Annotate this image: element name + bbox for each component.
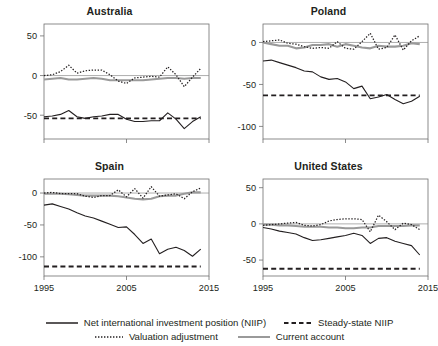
chart-australia: 500-50 bbox=[0, 0, 219, 155]
dashed-dark-line-icon bbox=[283, 318, 313, 328]
legend-label-steady-state-niip: Steady-state NIIP bbox=[318, 316, 393, 330]
solid-gray-line-icon bbox=[237, 332, 271, 342]
legend-row-2: Valuation adjustment Current account bbox=[0, 330, 438, 344]
svg-text:-50: -50 bbox=[24, 220, 37, 230]
svg-text:2015: 2015 bbox=[199, 283, 219, 293]
legend-item-valuation-adjustment: Valuation adjustment bbox=[94, 330, 218, 344]
chart-poland: 0-50-100 bbox=[219, 0, 438, 155]
chart-legend: Net international investment position (N… bbox=[0, 316, 438, 344]
panel-poland: Poland 0-50-100 bbox=[219, 0, 438, 155]
figure-niip-decomposition: Australia 500-50 Poland 0-50-100 Spain 0… bbox=[0, 0, 438, 346]
svg-text:-50: -50 bbox=[243, 80, 256, 90]
legend-label-valuation-adjustment: Valuation adjustment bbox=[129, 330, 218, 344]
solid-dark-line-icon bbox=[45, 318, 79, 328]
svg-text:0: 0 bbox=[32, 71, 37, 81]
svg-text:1995: 1995 bbox=[253, 283, 273, 293]
svg-text:2005: 2005 bbox=[116, 283, 136, 293]
panel-united-states: United States 500-50199520052015 bbox=[219, 155, 438, 306]
legend-label-niip: Net international investment position (N… bbox=[84, 316, 266, 330]
legend-label-current-account: Current account bbox=[276, 330, 344, 344]
svg-text:-50: -50 bbox=[24, 111, 37, 121]
svg-text:1995: 1995 bbox=[34, 283, 54, 293]
svg-text:-50: -50 bbox=[243, 255, 256, 265]
svg-text:50: 50 bbox=[27, 31, 37, 41]
svg-text:2005: 2005 bbox=[335, 283, 355, 293]
panel-grid: Australia 500-50 Poland 0-50-100 Spain 0… bbox=[0, 0, 438, 306]
legend-row-1: Net international investment position (N… bbox=[0, 316, 438, 330]
svg-text:-100: -100 bbox=[19, 252, 37, 262]
legend-item-steady-state-niip: Steady-state NIIP bbox=[283, 316, 393, 330]
legend-item-niip: Net international investment position (N… bbox=[45, 316, 266, 330]
dotted-dark-line-icon bbox=[94, 332, 124, 342]
panel-spain: Spain 0-50-100199520052015 bbox=[0, 155, 219, 306]
svg-text:0: 0 bbox=[32, 188, 37, 198]
svg-text:50: 50 bbox=[246, 183, 256, 193]
chart-spain: 0-50-100199520052015 bbox=[0, 155, 219, 306]
svg-text:0: 0 bbox=[251, 38, 256, 48]
svg-text:0: 0 bbox=[251, 219, 256, 229]
svg-text:-100: -100 bbox=[238, 122, 256, 132]
legend-item-current-account: Current account bbox=[237, 330, 344, 344]
panel-australia: Australia 500-50 bbox=[0, 0, 219, 155]
chart-united-states: 500-50199520052015 bbox=[219, 155, 438, 306]
svg-text:2015: 2015 bbox=[418, 283, 438, 293]
